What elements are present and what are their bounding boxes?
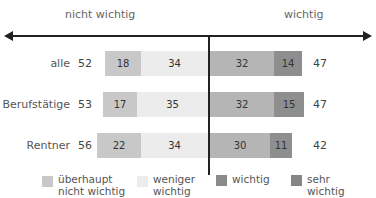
total-right: 47 [313,57,327,70]
bar-segment-weniger-wichtig: 34 [141,133,208,158]
legend-swatch-ueberhaupt-nicht-wichtig [42,176,53,187]
row-label: Rentner [0,139,70,152]
bar-segment-wichtig: 32 [210,51,274,76]
total-left: 56 [78,139,92,152]
arrow-right-icon [363,31,372,41]
row-label: alle [0,57,70,70]
legend-swatch-wichtig [216,175,227,186]
total-left: 53 [78,98,92,111]
axis-label-right: wichtig [284,8,323,21]
horizontal-axis [10,35,370,37]
bar-segment-weniger-wichtig: 35 [137,92,208,117]
bar-segment-ueberhaupt-nicht-wichtig: 18 [105,51,141,76]
row-label: Berufstätige [0,98,70,111]
legend-label: überhaupt nicht wichtig [58,173,125,197]
total-right: 47 [313,98,327,111]
legend-label: wichtig [232,173,270,185]
bar-segment-sehr-wichtig: 11 [270,133,292,158]
bar-segment-sehr-wichtig: 14 [274,51,302,76]
bar-segment-sehr-wichtig: 15 [274,92,304,117]
bar-segment-ueberhaupt-nicht-wichtig: 17 [103,92,137,117]
bar-segment-weniger-wichtig: 34 [141,51,208,76]
legend-label: sehr wichtig [307,173,345,197]
total-right: 42 [313,139,327,152]
legend-swatch-weniger-wichtig [137,176,148,187]
bar-segment-ueberhaupt-nicht-wichtig: 22 [97,133,141,158]
bar-segment-wichtig: 32 [210,92,274,117]
bar-segment-wichtig: 30 [210,133,270,158]
legend-label: weniger wichtig [153,173,195,197]
total-left: 52 [78,57,92,70]
axis-label-left: nicht wichtig [65,8,135,21]
legend-swatch-sehr-wichtig [291,175,302,186]
